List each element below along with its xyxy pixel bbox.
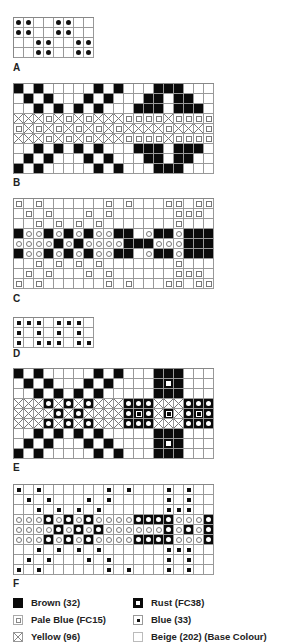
circle-stitch-icon — [184, 515, 194, 525]
rust-stitch-icon — [194, 419, 204, 429]
beige-stitch-icon — [134, 565, 144, 575]
circle-stitch-icon — [174, 229, 184, 239]
beige-stitch-icon — [134, 94, 144, 104]
beige-stitch-icon — [124, 164, 134, 174]
beige-stitch-icon — [124, 104, 134, 114]
rust-stitch-icon — [124, 419, 134, 429]
beige-stitch-icon — [204, 259, 214, 269]
beige-stitch-icon — [204, 449, 214, 459]
brown-stitch-icon — [164, 389, 174, 399]
beige-stitch-icon — [124, 259, 134, 269]
pale-blue-stitch-icon — [174, 134, 184, 144]
brown-stitch-icon — [64, 229, 74, 239]
brown-stitch-icon — [94, 104, 104, 114]
rust-stitch-icon — [204, 535, 214, 545]
brown-stitch-icon — [154, 449, 164, 459]
beige-stitch-icon — [64, 369, 74, 379]
beige-stitch-icon — [64, 209, 74, 219]
pale-blue-stitch-icon — [184, 209, 194, 219]
blue-stitch-icon — [34, 545, 44, 555]
beige-stitch-icon — [14, 439, 24, 449]
circle-stitch-icon — [194, 535, 204, 545]
beige-stitch-icon — [74, 269, 84, 279]
beige-stitch-icon — [44, 199, 54, 209]
pale-blue-stitch-icon — [104, 199, 114, 209]
beige-stitch-icon — [194, 439, 204, 449]
beige-stitch-icon — [134, 369, 144, 379]
brown-stitch-icon — [134, 104, 144, 114]
pale-blue-stitch-icon — [164, 124, 174, 134]
beige-stitch-icon — [64, 154, 74, 164]
beige-stitch-icon — [24, 328, 34, 338]
beige-stitch-icon — [164, 154, 174, 164]
circle-stitch-icon — [84, 239, 94, 249]
beige-stitch-icon — [134, 154, 144, 164]
blue-stitch-icon — [34, 338, 44, 348]
yellow-stitch-icon — [74, 399, 84, 409]
brown-stitch-icon — [184, 154, 194, 164]
beige-stitch-icon — [14, 154, 24, 164]
legend-label: Yellow (96) — [31, 631, 80, 642]
circle-stitch-icon — [124, 525, 134, 535]
pale-blue-stitch-icon — [144, 114, 154, 124]
pale-blue-stitch-icon — [14, 199, 24, 209]
circle-stitch-icon — [124, 515, 134, 525]
beige-stitch-icon — [144, 259, 154, 269]
blue-stitch-icon — [164, 505, 174, 515]
brown-stitch-icon — [34, 389, 44, 399]
beige-stitch-icon — [34, 379, 44, 389]
beige-stitch-icon — [114, 505, 124, 515]
stitch-grid — [13, 198, 214, 289]
beige-swatch-icon — [133, 632, 143, 642]
beige-stitch-icon — [194, 94, 204, 104]
rust-stitch-icon — [74, 409, 84, 419]
beige-stitch-icon — [134, 164, 144, 174]
pale-blue-stitch-icon — [114, 124, 124, 134]
circle-stitch-icon — [144, 525, 154, 535]
beige-stitch-icon — [54, 495, 64, 505]
blue-swatch-icon — [133, 615, 143, 625]
circle-stitch-icon — [64, 239, 74, 249]
dot-stitch-icon — [44, 48, 54, 58]
brown-stitch-icon — [114, 84, 124, 94]
brown-stitch-icon — [104, 154, 114, 164]
blue-stitch-icon — [184, 485, 194, 495]
rust-stitch-icon — [184, 525, 194, 535]
circle-stitch-icon — [104, 515, 114, 525]
yellow-stitch-icon — [104, 419, 114, 429]
beige-stitch-icon — [74, 28, 84, 38]
yellow-stitch-icon — [94, 409, 104, 419]
blue-stitch-icon — [94, 505, 104, 515]
beige-stitch-icon — [124, 389, 134, 399]
rust-stitch-icon — [64, 399, 74, 409]
beige-stitch-icon — [124, 439, 134, 449]
yellow-stitch-icon — [164, 134, 174, 144]
brown-stitch-icon — [194, 239, 204, 249]
beige-stitch-icon — [44, 505, 54, 515]
legend-label: Beige (202) (Base Colour) — [151, 631, 267, 642]
brown-swatch-icon — [13, 598, 23, 608]
circle-stitch-icon — [54, 249, 64, 259]
beige-stitch-icon — [14, 104, 24, 114]
brown-stitch-icon — [204, 229, 214, 239]
beige-stitch-icon — [104, 449, 114, 459]
beige-stitch-icon — [14, 555, 24, 565]
brown-stitch-icon — [74, 104, 84, 114]
yellow-stitch-icon — [104, 409, 114, 419]
beige-stitch-icon — [114, 389, 124, 399]
beige-stitch-icon — [204, 269, 214, 279]
beige-stitch-icon — [114, 555, 124, 565]
brown-stitch-icon — [114, 164, 124, 174]
yellow-stitch-icon — [114, 114, 124, 124]
beige-stitch-icon — [134, 259, 144, 269]
beige-stitch-icon — [44, 389, 54, 399]
yellow-stitch-icon — [194, 124, 204, 134]
pale-blue-stitch-icon — [124, 114, 134, 124]
circle-stitch-icon — [184, 535, 194, 545]
beige-stitch-icon — [84, 485, 94, 495]
brown-stitch-icon — [154, 249, 164, 259]
yellow-stitch-icon — [124, 124, 134, 134]
beige-stitch-icon — [124, 94, 134, 104]
beige-stitch-icon — [64, 219, 74, 229]
beige-stitch-icon — [24, 429, 34, 439]
